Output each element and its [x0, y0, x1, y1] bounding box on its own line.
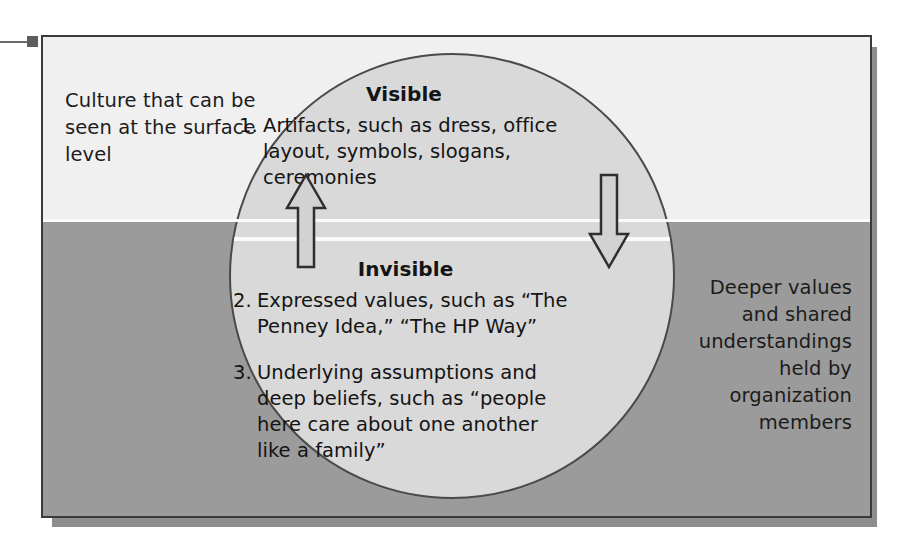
invisible-section: Invisible 2. Expressed values, such as “… [233, 256, 578, 464]
invisible-item-3-number: 3. [233, 360, 257, 464]
waterline-highlight [43, 219, 870, 222]
invisible-item-3-text: Underlying assumptions and deep beliefs,… [257, 360, 578, 464]
down-arrow-icon [587, 171, 631, 271]
invisible-item-2: 2. Expressed values, such as “The Penney… [233, 288, 578, 340]
right-caption: Deeper values and shared understandings … [667, 274, 852, 436]
invisible-item-2-number: 2. [233, 288, 257, 340]
callout-leader-line [0, 41, 30, 43]
left-caption: Culture that can be seen at the surface … [65, 87, 265, 168]
visible-item-1-number: 1. [239, 113, 263, 191]
invisible-item-3: 3. Underlying assumptions and deep belie… [233, 360, 578, 464]
organizational-culture-figure: Culture that can be seen at the surface … [41, 35, 872, 518]
diagram-canvas: Culture that can be seen at the surface … [0, 0, 910, 545]
visible-heading: Visible [239, 81, 569, 107]
callout-marker-square [27, 36, 38, 47]
invisible-item-2-text: Expressed values, such as “The Penney Id… [257, 288, 578, 340]
up-arrow-icon [284, 171, 328, 271]
